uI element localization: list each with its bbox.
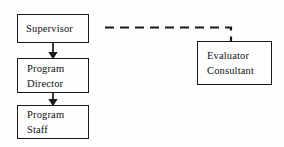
node-program-director-line-1: Program <box>18 61 64 76</box>
node-program-staff[interactable]: Program Staff <box>17 105 89 139</box>
node-evaluator-consultant-line-2: Consultant <box>198 63 254 78</box>
node-program-director-line-2: Director <box>18 76 63 91</box>
node-supervisor[interactable]: Supervisor <box>17 14 89 43</box>
node-program-director[interactable]: Program Director <box>17 58 89 93</box>
node-supervisor-line-1: Supervisor <box>18 21 73 36</box>
node-program-staff-line-1: Program <box>18 107 64 122</box>
node-program-staff-line-2: Staff <box>18 122 48 137</box>
connector-supervisor-to-evaluator-consultant <box>105 28 231 42</box>
node-evaluator-consultant[interactable]: Evaluator Consultant <box>197 41 272 85</box>
organization-chart-diagram: Supervisor Program Director Program Staf… <box>0 0 284 147</box>
node-evaluator-consultant-line-1: Evaluator <box>198 48 249 63</box>
